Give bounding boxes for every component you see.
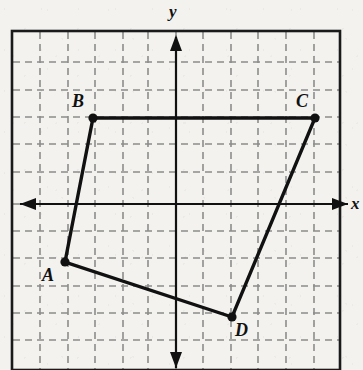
vertex-label-d: D [235,321,248,339]
coordinate-plane-figure: y x A B C D [0,0,363,370]
vertex-label-c: C [296,92,308,110]
vertex-dot-b [88,113,97,122]
x-axis-label: x [351,194,360,214]
y-axis-label: y [169,2,177,22]
plot-canvas [0,0,363,370]
vertex-label-a: A [42,266,54,284]
x-axis-arrow-left [20,198,36,210]
y-axis-arrow-down [170,352,182,368]
axes [20,35,348,368]
vertex-label-b: B [72,92,84,110]
vertex-dot-c [310,113,319,122]
vertex-dot-a [60,257,69,266]
quadrilateral-abcd [65,118,315,317]
y-axis-arrow-up [170,35,182,51]
